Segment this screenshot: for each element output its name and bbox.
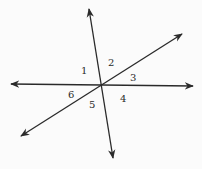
angle-label-1: 1	[81, 65, 87, 76]
steep-line	[89, 9, 113, 158]
angle-label-6: 6	[68, 89, 74, 100]
angle-label-4: 4	[120, 93, 126, 104]
angle-label-3: 3	[130, 72, 136, 83]
angle-label-5: 5	[89, 99, 95, 110]
intersecting-lines-diagram: 1 2 3 4 5 6	[0, 0, 202, 169]
angle-label-2: 2	[108, 57, 114, 68]
